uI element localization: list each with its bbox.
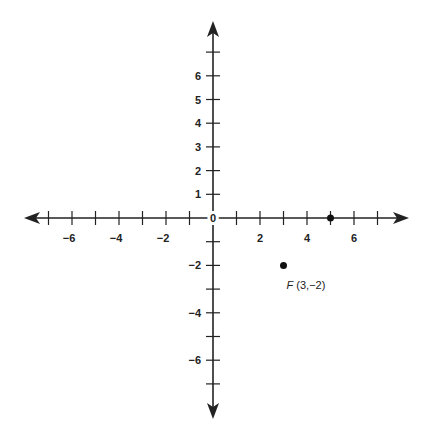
y-tick-label: 1 xyxy=(195,188,201,200)
x-tick-label: −4 xyxy=(110,232,123,244)
origin-label: 0 xyxy=(210,212,216,224)
y-tick-label: −6 xyxy=(188,354,201,366)
y-tick-label: 3 xyxy=(195,141,201,153)
y-tick-label: 5 xyxy=(195,94,201,106)
y-tick-label: −2 xyxy=(188,259,201,271)
data-point xyxy=(327,215,334,222)
x-tick-label: −6 xyxy=(63,232,76,244)
y-tick-label: 4 xyxy=(195,117,202,129)
point-label: F (3,−2) xyxy=(287,279,326,291)
coordinate-plane: −6−4−2246654321−2−4−60 F (3,−2) xyxy=(0,0,426,440)
y-tick-label: −4 xyxy=(188,307,201,319)
x-tick-label: 6 xyxy=(351,232,357,244)
data-points: F (3,−2) xyxy=(280,215,334,292)
x-tick-label: 4 xyxy=(304,232,311,244)
x-tick-label: −2 xyxy=(157,232,170,244)
data-point xyxy=(280,262,287,269)
y-tick-label: 2 xyxy=(195,165,201,177)
x-tick-label: 2 xyxy=(257,232,263,244)
axes xyxy=(24,21,409,419)
y-tick-label: 6 xyxy=(195,70,201,82)
